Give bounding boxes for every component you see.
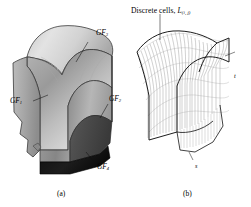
shaded-solid-svg <box>0 0 125 185</box>
caption-b: (b) <box>183 189 192 198</box>
discrete-cells-annotation: Discrete cells, L(i, j) <box>131 6 191 15</box>
caption-a: (a) <box>57 189 65 198</box>
label-gf4: GF4 <box>97 163 109 172</box>
figure-container: GF3 GF1 GF2 GF4 <box>0 0 251 207</box>
label-gf3: GF3 <box>96 29 108 38</box>
axis-label-s: s <box>195 163 197 169</box>
label-gf1: GF1 <box>10 97 22 106</box>
label-gf2: GF2 <box>109 95 121 104</box>
panel-a-shaded-model: GF3 GF1 GF2 GF4 <box>0 0 125 207</box>
axis-label-t: t <box>234 73 236 79</box>
panel-b-wireframe-model: Discrete cells, L(i, j) t s <box>125 0 251 207</box>
wireframe-mesh-svg <box>125 0 251 185</box>
